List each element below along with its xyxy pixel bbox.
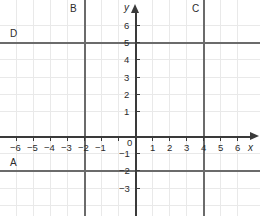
x-tick (50, 137, 51, 141)
y-tick (136, 25, 140, 26)
y-tick-label: −1 (119, 149, 130, 159)
x-tick-label: −2 (78, 143, 89, 153)
line-b (84, 0, 86, 216)
x-tick (152, 137, 153, 141)
x-tick (186, 137, 187, 141)
x-tick (169, 137, 170, 141)
line-c (203, 0, 205, 216)
gridline-horizontal (0, 59, 260, 60)
coordinate-plane: −6 −5 −4 −3 −2 −1 1 2 3 4 5 6 0 6 5 4 3 … (0, 0, 260, 216)
y-tick-label: 3 (124, 73, 129, 83)
gridline-vertical (220, 0, 221, 216)
x-tick-label: 2 (167, 143, 172, 153)
y-tick (136, 170, 140, 171)
gridline-horizontal (0, 77, 260, 78)
gridline-vertical (237, 0, 238, 216)
line-a (0, 170, 260, 172)
y-tick (136, 111, 140, 112)
x-tick-label: 3 (184, 143, 189, 153)
y-tick-label: 1 (124, 107, 129, 117)
y-tick-label: −2 (119, 166, 130, 176)
y-tick (136, 94, 140, 95)
x-axis-label: x (248, 143, 253, 153)
y-tick-label: 2 (124, 90, 129, 100)
x-tick (101, 137, 102, 141)
gridline-vertical (67, 0, 68, 216)
y-tick (136, 77, 140, 78)
x-tick (203, 137, 204, 141)
y-axis (135, 10, 137, 216)
x-tick (84, 137, 85, 141)
gridline-vertical (186, 0, 187, 216)
y-tick (136, 188, 140, 189)
y-axis-arrow-icon (131, 4, 139, 13)
x-tick (237, 137, 238, 141)
x-tick (118, 137, 119, 141)
x-tick-label: −3 (61, 143, 72, 153)
x-tick-label: −6 (10, 143, 21, 153)
x-tick-label: 6 (235, 143, 240, 153)
gridline-vertical (169, 0, 170, 216)
line-label-a: A (10, 158, 17, 168)
x-tick (67, 137, 68, 141)
y-tick-label: −3 (119, 184, 130, 194)
y-tick (136, 42, 140, 43)
x-tick-label: 5 (218, 143, 223, 153)
line-label-c: C (192, 4, 199, 14)
x-axis-arrow-icon (250, 132, 259, 140)
y-axis-label: y (124, 3, 129, 13)
gridline-horizontal (0, 188, 260, 189)
x-tick-label: −4 (44, 143, 55, 153)
y-tick (136, 59, 140, 60)
gridline-horizontal (0, 205, 260, 206)
gridline-horizontal (0, 94, 260, 95)
origin-label: 0 (127, 138, 132, 148)
gridline-horizontal (0, 111, 260, 112)
gridline-vertical (101, 0, 102, 216)
line-label-d: D (10, 29, 17, 39)
y-tick (136, 153, 140, 154)
y-tick-label: 4 (124, 55, 129, 65)
x-tick-label: −5 (27, 143, 38, 153)
gridline-vertical (152, 0, 153, 216)
y-tick-label: 6 (124, 21, 129, 31)
x-tick-label: 1 (150, 143, 155, 153)
line-label-b: B (70, 4, 77, 14)
line-d (0, 42, 260, 44)
x-tick-label: −1 (95, 143, 106, 153)
x-tick-label: 4 (201, 143, 206, 153)
x-tick (33, 137, 34, 141)
x-tick (220, 137, 221, 141)
gridline-vertical (50, 0, 51, 216)
gridline-horizontal (0, 153, 260, 154)
y-tick-label: 5 (124, 38, 129, 48)
gridline-vertical (33, 0, 34, 216)
gridline-horizontal (0, 25, 260, 26)
x-tick (16, 137, 17, 141)
